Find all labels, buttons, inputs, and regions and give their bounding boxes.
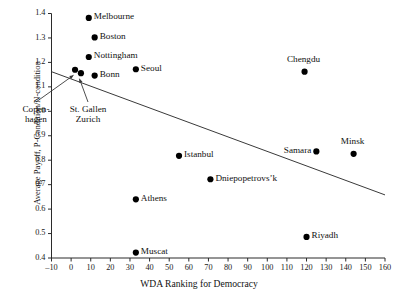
data-point <box>86 15 92 21</box>
y-axis-title: Average Payoff, P-Condition/N-condition <box>32 33 42 233</box>
data-point <box>176 153 182 159</box>
data-point <box>301 69 307 75</box>
data-point-label: Samara <box>284 146 312 156</box>
leader-arrowhead-stgallen <box>79 79 82 83</box>
annotation-line-2: Zurich <box>70 114 107 124</box>
data-point <box>351 151 357 157</box>
data-point-label: Bonn <box>100 70 120 80</box>
data-point-label: Nottingham <box>94 51 138 61</box>
data-point-label: Muscat <box>141 247 168 257</box>
x-tick-label: 160 <box>372 264 398 272</box>
data-point-label: Melbourne <box>94 12 134 22</box>
data-point-label: Riyadh <box>312 231 339 241</box>
x-axis-title: WDA Ranking for Democracy <box>0 278 398 289</box>
annotation-line-1: St. Gallen <box>70 104 107 114</box>
data-point-label: Chengdu <box>287 55 320 65</box>
data-point <box>92 73 98 79</box>
data-point <box>303 234 309 240</box>
data-point <box>78 70 84 76</box>
y-tick-label: 1.4 <box>18 9 46 17</box>
data-point <box>207 176 213 182</box>
scatter-chart: 1.41.31.21.11.00.90.80.70.60.50.4–100102… <box>0 0 398 300</box>
data-point-label: Dniepopetrovs’k <box>215 174 277 184</box>
data-point <box>133 250 139 256</box>
y-tick-label: 0.4 <box>18 254 46 262</box>
data-point-label: Seoul <box>141 64 162 74</box>
data-point-label: Istanbul <box>184 150 214 160</box>
data-point-label: Boston <box>100 32 126 42</box>
data-point <box>313 148 319 154</box>
data-point <box>133 66 139 72</box>
data-point <box>72 67 78 73</box>
data-point <box>86 54 92 60</box>
annotation-label-stgallen: St. GallenZurich <box>70 104 107 125</box>
data-point-label: Athens <box>141 194 167 204</box>
data-point <box>133 196 139 202</box>
data-point-label: Minsk <box>341 137 365 147</box>
data-point <box>92 34 98 40</box>
